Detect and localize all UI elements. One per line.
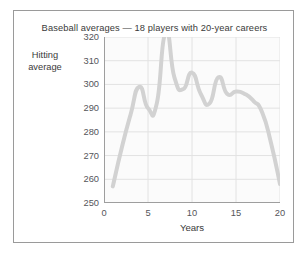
y-axis-tick-label: 270 <box>83 151 99 161</box>
y-axis-title-line-1: Hitting <box>16 49 74 61</box>
y-axis-tick-label: 260 <box>83 174 99 184</box>
y-axis-tick-label: 280 <box>83 127 99 137</box>
y-axis-title: Hitting average <box>16 49 74 73</box>
x-axis-title: Years <box>104 222 280 233</box>
x-axis-tick-label: 0 <box>101 208 106 218</box>
plot-wrapper: 250260270280290300310320 05101520 Years <box>104 37 280 203</box>
data-line-hitting-average <box>113 37 280 186</box>
y-axis-tick-label: 300 <box>83 79 99 89</box>
x-axis-tick-label: 10 <box>187 208 197 218</box>
chart-figure: Baseball averages — 18 players with 20-y… <box>13 10 294 243</box>
y-axis-tick-label: 320 <box>83 32 99 42</box>
plot-area <box>104 37 280 203</box>
y-axis-tick-label: 250 <box>83 198 99 208</box>
y-axis-tick-label: 310 <box>83 56 99 66</box>
x-axis-tick-label: 5 <box>145 208 150 218</box>
line-chart-svg <box>104 37 280 203</box>
x-axis-tick-label: 20 <box>275 208 285 218</box>
y-axis-tick-label: 290 <box>83 103 99 113</box>
y-axis-title-line-2: average <box>16 61 74 73</box>
x-axis-tick-label: 15 <box>231 208 241 218</box>
chart-title: Baseball averages — 18 players with 20-y… <box>14 23 295 33</box>
